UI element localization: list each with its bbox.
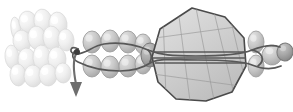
filament-bead: [101, 56, 119, 78]
bead-body: [248, 31, 264, 53]
bead-body: [119, 31, 137, 53]
bead-specular-highlight: [137, 37, 143, 44]
figure-root: [0, 0, 293, 112]
cluster-bead: [248, 31, 264, 53]
filament-bead: [101, 30, 119, 52]
bead-specular-highlight: [121, 58, 128, 65]
bead-specular-highlight: [103, 33, 110, 40]
bead-body: [101, 30, 119, 52]
bead-specular-highlight: [85, 58, 92, 65]
strand-junction-node: [74, 49, 80, 55]
bead-specular-highlight: [103, 59, 110, 66]
filament-bead: [119, 31, 137, 53]
bead-body: [119, 55, 137, 77]
bead-specular-highlight: [85, 34, 92, 41]
diagram-canvas: [0, 0, 293, 112]
bead-specular-highlight: [121, 34, 128, 41]
bead-body: [83, 31, 101, 53]
filament-bead: [119, 55, 137, 77]
left-cluster-group: [4, 8, 75, 88]
bead-body: [101, 56, 119, 78]
filament-bead: [83, 31, 101, 53]
bead-specular-highlight: [250, 34, 256, 41]
